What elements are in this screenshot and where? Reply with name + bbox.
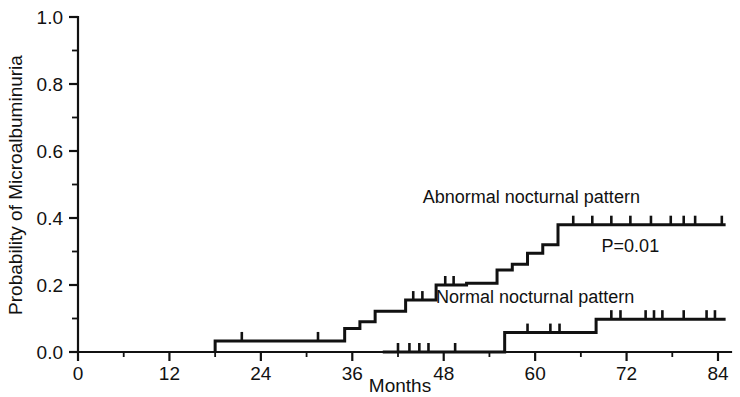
y-axis: 0.00.20.40.60.81.0 <box>37 7 78 363</box>
km-plot-svg: 0.00.20.40.60.81.0 012243648607284 P=0.0… <box>0 0 740 397</box>
x-tick-label: 84 <box>707 363 729 384</box>
km-curve-normal-nocturnal-pattern <box>383 319 726 352</box>
y-tick-label: 0.0 <box>37 342 63 363</box>
x-tick-label: 60 <box>525 363 546 384</box>
y-axis-title: Probability of Microalbuminuria <box>5 55 26 315</box>
y-tick-label: 0.2 <box>37 275 63 296</box>
x-tick-label: 48 <box>433 363 454 384</box>
y-tick-label: 0.8 <box>37 74 63 95</box>
y-tick-label: 0.4 <box>37 208 64 229</box>
annotation-abnormal-label: Abnormal nocturnal pattern <box>423 187 640 207</box>
y-tick-label: 1.0 <box>37 7 63 28</box>
x-axis-title: Months <box>369 375 431 396</box>
chart-annotations: P=0.01Abnormal nocturnal patternNormal n… <box>423 187 659 307</box>
x-tick-label: 12 <box>159 363 180 384</box>
x-tick-label: 72 <box>616 363 637 384</box>
x-tick-label: 0 <box>73 363 84 384</box>
annotation-normal-label: Normal nocturnal pattern <box>436 287 634 307</box>
kaplan-meier-figure: 0.00.20.40.60.81.0 012243648607284 P=0.0… <box>0 0 740 397</box>
y-tick-label: 0.6 <box>37 141 63 162</box>
annotation-pvalue: P=0.01 <box>602 236 660 256</box>
x-tick-label: 36 <box>342 363 363 384</box>
x-tick-label: 24 <box>250 363 272 384</box>
